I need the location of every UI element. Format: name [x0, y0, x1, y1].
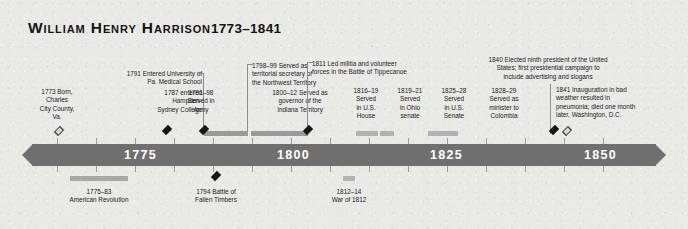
note-line: 1841 Inauguration in bad	[556, 86, 660, 94]
axis-tick	[603, 166, 604, 172]
title-years: 1773–1841	[211, 21, 281, 36]
axis-label-1775: 1775	[124, 148, 157, 162]
duration-bar-us-house	[356, 131, 378, 136]
axis-tick	[564, 166, 565, 172]
note-line: 1825–28	[434, 87, 474, 95]
duration-bar-us-senate	[428, 131, 458, 136]
note-line: 1791–98	[178, 89, 224, 97]
note-line: 1819–21	[390, 87, 430, 95]
note-line: 1800–12 Served as	[254, 89, 346, 97]
note-line: Charles	[24, 96, 90, 104]
leader-line-northwest-vertical	[247, 64, 248, 133]
note-line: 1773 Born,	[24, 88, 90, 96]
duration-bar-northwest-indiana	[251, 131, 308, 136]
note-line: the Northwest Territory	[252, 79, 348, 87]
note-us-house: 1816–19 Served in U.S. House	[346, 87, 386, 120]
note-line: Served	[346, 95, 386, 103]
note-line: Pa. Medical School	[70, 78, 202, 86]
note-line: House	[346, 112, 386, 120]
note-line: in U.S.	[434, 104, 474, 112]
note-line: in U.S.	[346, 104, 386, 112]
note-line: Served	[390, 95, 430, 103]
note-penn-medical: 1791 Entered University of Pa. Medical S…	[70, 70, 202, 87]
duration-bar-army	[204, 131, 248, 136]
axis-tick	[369, 166, 370, 172]
axis-tick	[96, 166, 97, 172]
note-war-of-1812: 1812–14 War of 1812	[312, 188, 386, 205]
note-elected-president: 1840 Elected ninth president of the Unit…	[452, 56, 644, 81]
note-line: 1791 Entered University of	[70, 70, 202, 78]
axis-label-1825: 1825	[430, 148, 463, 162]
duration-bar-american-revolution	[70, 176, 128, 181]
note-line: include advertising and slogans	[452, 73, 644, 81]
note-line: American Revolution	[52, 196, 146, 204]
note-line: War of 1812	[312, 196, 386, 204]
note-line: Va.	[24, 113, 90, 121]
axis-tick	[447, 166, 448, 172]
note-indiana-governor: 1800–12 Served as governor of the Indian…	[254, 89, 346, 114]
note-line: Served in	[178, 97, 224, 105]
leader-line-tippecanoe-vertical	[307, 62, 308, 133]
note-line: Army	[178, 106, 224, 114]
note-line: 1828–29	[476, 87, 532, 95]
note-line: pneumonia; died one month	[556, 103, 660, 111]
note-line: 1840 Elected ninth president of the Unit…	[452, 56, 644, 64]
axis-tick	[525, 166, 526, 172]
axis-arrow-right-icon	[655, 144, 666, 166]
note-line: 1775–83	[52, 188, 146, 196]
page-title: William Henry Harrison1773–1841	[28, 19, 281, 37]
note-line: 1816–19	[346, 87, 386, 95]
note-line: Colombia	[476, 112, 532, 120]
timeline-infographic: William Henry Harrison1773–1841 1773 Bor…	[0, 0, 688, 229]
axis-tick	[291, 166, 292, 172]
axis-tick	[486, 166, 487, 172]
note-born: 1773 Born, Charles City County, Va.	[24, 88, 90, 121]
note-line: Served as	[476, 95, 532, 103]
note-fallen-timbers: 1794 Battle of Fallen Timbers	[176, 188, 256, 205]
axis-label-1850: 1850	[584, 148, 617, 162]
note-line: Fallen Timbers	[176, 196, 256, 204]
axis-tick	[135, 166, 136, 172]
note-line: weather resulted in	[556, 94, 660, 102]
axis-tick	[57, 166, 58, 172]
timeline-axis: 1775 1800 1825 1850	[22, 144, 666, 166]
note-ohio-senate: 1819–21 Served in Ohio senate	[390, 87, 430, 120]
note-line: Served	[434, 95, 474, 103]
note-line: States; first presidential campaign to	[452, 64, 644, 72]
axis-tick	[408, 166, 409, 172]
duration-bar-war-of-1812	[343, 176, 355, 181]
note-line: in Ohio	[390, 104, 430, 112]
note-army: 1791–98 Served in Army	[178, 89, 224, 114]
note-line: Indiana Territory	[254, 106, 346, 114]
leader-line-death-vertical	[550, 84, 551, 134]
axis-tick	[213, 166, 214, 172]
note-line: City County,	[24, 105, 90, 113]
note-line: Senate	[434, 112, 474, 120]
axis-tick	[252, 166, 253, 172]
axis-tick	[330, 166, 331, 172]
duration-bar-ohio-senate	[380, 131, 394, 136]
note-us-senate: 1825–28 Served in U.S. Senate	[434, 87, 474, 120]
note-line: governor of the	[254, 97, 346, 105]
note-line: senate	[390, 112, 430, 120]
note-line: minister to	[476, 104, 532, 112]
note-line: 1812–14	[312, 188, 386, 196]
note-line: 1794 Battle of	[176, 188, 256, 196]
axis-label-1800: 1800	[277, 148, 310, 162]
note-death: 1841 Inauguration in bad weather resulte…	[556, 86, 660, 119]
axis-tick	[174, 166, 175, 172]
note-line: later, Washington, D.C.	[556, 111, 660, 119]
note-minister-colombia: 1828–29 Served as minister to Colombia	[476, 87, 532, 120]
title-name: William Henry Harrison	[28, 19, 211, 36]
note-american-revolution: 1775–83 American Revolution	[52, 188, 146, 205]
